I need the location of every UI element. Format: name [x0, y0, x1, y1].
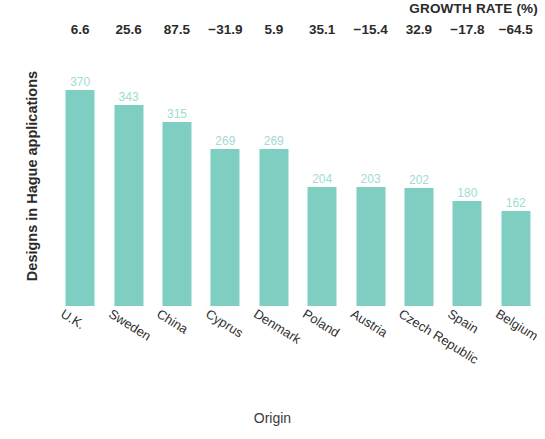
bar-value-label: 180	[443, 186, 491, 200]
growth-rate-value: −15.4	[346, 22, 394, 37]
x-axis-tick-labels: U.K.SwedenChinaCyprusDenmarkPolandAustri…	[56, 306, 540, 406]
bar[interactable]	[404, 188, 433, 306]
x-tick-label: China	[155, 306, 192, 337]
x-axis-title: Origin	[0, 410, 545, 426]
bar[interactable]	[356, 187, 385, 306]
x-tick-label: Cyprus	[203, 306, 246, 341]
bar-value-label: 162	[492, 196, 540, 210]
growth-rate-value: 5.9	[250, 22, 298, 37]
bar[interactable]	[308, 187, 337, 306]
bar[interactable]	[162, 122, 191, 306]
growth-rate-value: −31.9	[201, 22, 249, 37]
growth-rate-value: 25.6	[104, 22, 152, 37]
bar[interactable]	[259, 149, 288, 306]
bar-value-label: 269	[250, 134, 298, 148]
bar[interactable]	[453, 201, 482, 306]
growth-rate-value: 6.6	[56, 22, 104, 37]
x-tick-label: Denmark	[251, 306, 304, 347]
bar-group: −64.5162	[492, 16, 540, 306]
bar-group: 5.9269	[250, 16, 298, 306]
bar-chart-figure: GROWTH RATE (%) Designs in Hague applica…	[0, 0, 545, 439]
bar-group: −15.4203	[346, 16, 394, 306]
bar-value-label: 269	[201, 134, 249, 148]
plot-area: 6.637025.634387.5315−31.92695.926935.120…	[56, 16, 540, 306]
bar-group: 87.5315	[153, 16, 201, 306]
bar[interactable]	[66, 90, 95, 306]
bar-value-label: 202	[395, 173, 443, 187]
bar-group: −31.9269	[201, 16, 249, 306]
x-tick-label: Sweden	[106, 306, 154, 344]
bar-value-label: 343	[104, 90, 152, 104]
bar-group: 6.6370	[56, 16, 104, 306]
bar-value-label: 370	[56, 75, 104, 89]
x-tick-label: U.K.	[58, 306, 87, 332]
bar-group: 32.9202	[395, 16, 443, 306]
growth-rate-value: 87.5	[153, 22, 201, 37]
bar[interactable]	[114, 105, 143, 306]
bar-value-label: 203	[346, 172, 394, 186]
bar-value-label: 315	[153, 107, 201, 121]
x-tick-label: Poland	[300, 306, 342, 340]
x-tick-label: Spain	[445, 306, 481, 336]
growth-rate-value: 32.9	[395, 22, 443, 37]
growth-rate-value: −64.5	[492, 22, 540, 37]
bar-group: 35.1204	[298, 16, 346, 306]
growth-rate-value: 35.1	[298, 22, 346, 37]
x-tick-label: Austria	[348, 306, 390, 340]
bar-group: 25.6343	[104, 16, 152, 306]
bar-value-label: 204	[298, 172, 346, 186]
x-tick-label: Belgium	[493, 306, 541, 344]
bar-group: −17.8180	[443, 16, 491, 306]
y-axis-title: Designs in Hague applications	[24, 36, 40, 316]
bar[interactable]	[501, 211, 530, 306]
growth-rate-header: GROWTH RATE (%)	[409, 1, 538, 16]
bar[interactable]	[211, 149, 240, 306]
growth-rate-value: −17.8	[443, 22, 491, 37]
